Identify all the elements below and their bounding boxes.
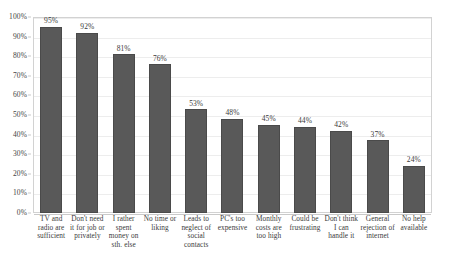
y-axis: 0%10%20%30%40%50%60%70%80%90%100%	[0, 17, 31, 213]
bar-value-label: 45%	[262, 114, 276, 123]
y-axis-tick-label: 40%	[13, 131, 27, 139]
y-axis-tick-label: 90%	[13, 33, 27, 41]
bar-slot: 81%	[106, 17, 142, 213]
x-axis-tick-label-line: liking	[142, 224, 178, 233]
x-axis-tick-label: Leads toneglect ofsocialcontacts	[178, 215, 214, 249]
x-axis-tick-label-line: frustrating	[287, 224, 323, 233]
bar-value-label: 92%	[80, 22, 94, 31]
x-axis-tick-label: No time orliking	[142, 215, 178, 232]
x-axis-tick-label: Don't needit for job orprivately	[69, 215, 105, 241]
x-axis-tick-label-line: handle it	[323, 232, 359, 241]
bar-value-label: 95%	[44, 16, 58, 25]
x-axis-tick-label-line: too high	[251, 232, 287, 241]
y-axis-tick-mark	[28, 56, 31, 57]
bar[interactable]	[258, 125, 280, 213]
bar-value-label: 48%	[225, 108, 239, 117]
y-axis-tick-label: 30%	[13, 150, 27, 158]
bar-slot: 37%	[359, 17, 395, 213]
x-axis-tick-label-line: sth. else	[106, 241, 142, 250]
x-axis-tick-label-line: expensive	[214, 224, 250, 233]
y-axis-tick-label: 80%	[13, 52, 27, 60]
x-axis-tick-label-line: internet	[359, 232, 395, 241]
y-axis-tick-mark	[28, 173, 31, 174]
y-axis-tick-label: 50%	[13, 111, 27, 119]
bar[interactable]	[76, 33, 98, 213]
bar[interactable]	[221, 119, 243, 213]
y-axis-tick-mark	[28, 17, 31, 18]
y-axis-tick-label: 100%	[9, 13, 27, 21]
bar-value-label: 76%	[153, 54, 167, 63]
x-axis-tick-label: I ratherspentmoney onsth. else	[106, 215, 142, 249]
x-axis-tick-label: PC's tooexpensive	[214, 215, 250, 232]
bar-slot: 92%	[69, 17, 105, 213]
bar[interactable]	[367, 140, 389, 213]
x-axis-tick-label: Don't thinkI canhandle it	[323, 215, 359, 241]
y-axis-tick-label: 70%	[13, 72, 27, 80]
y-axis-tick-mark	[28, 213, 31, 214]
y-axis-tick-mark	[28, 75, 31, 76]
x-axis-tick-label-line: available	[396, 224, 432, 233]
bar[interactable]	[113, 54, 135, 213]
bar-value-label: 53%	[189, 99, 203, 108]
bar-slot: 95%	[33, 17, 69, 213]
y-axis-tick-label: 10%	[13, 189, 27, 197]
bar[interactable]	[149, 64, 171, 213]
x-axis-tick-label-line: sufficient	[33, 232, 69, 241]
bar-slot: 53%	[178, 17, 214, 213]
bar[interactable]	[403, 166, 425, 213]
x-axis-tick-label: TV andradio aresufficient	[33, 215, 69, 241]
bars-layer: 95%92%81%76%53%48%45%44%42%37%24%	[33, 17, 432, 213]
y-axis-tick-label: 60%	[13, 91, 27, 99]
y-axis-tick-label: 20%	[13, 170, 27, 178]
y-axis-tick-label: 0%	[17, 209, 27, 217]
y-axis-tick-mark	[28, 134, 31, 135]
bar-slot: 24%	[396, 17, 432, 213]
bar-slot: 76%	[142, 17, 178, 213]
bar-slot: 48%	[214, 17, 250, 213]
x-axis-tick-label: Generalrejection ofinternet	[359, 215, 395, 241]
bar[interactable]	[40, 27, 62, 213]
bar-value-label: 42%	[334, 120, 348, 129]
bar-value-label: 37%	[371, 130, 385, 139]
y-axis-tick-mark	[28, 115, 31, 116]
bar-chart: 0%10%20%30%40%50%60%70%80%90%100% 95%92%…	[0, 0, 451, 266]
x-axis-tick-label: Monthlycosts aretoo high	[251, 215, 287, 241]
bar[interactable]	[185, 109, 207, 213]
bar-slot: 42%	[323, 17, 359, 213]
x-axis-tick-label-line: privately	[69, 232, 105, 241]
bar-value-label: 81%	[117, 44, 131, 53]
x-axis-tick-label-line: contacts	[178, 241, 214, 250]
x-axis-tick-label: No helpavailable	[396, 215, 432, 232]
bar[interactable]	[330, 131, 352, 213]
bar-slot: 44%	[287, 17, 323, 213]
y-axis-tick-mark	[28, 154, 31, 155]
y-axis-tick-mark	[28, 36, 31, 37]
bar-slot: 45%	[251, 17, 287, 213]
y-axis-tick-mark	[28, 193, 31, 194]
bar-value-label: 24%	[407, 155, 421, 164]
x-axis: TV andradio aresufficientDon't needit fo…	[33, 215, 432, 265]
y-axis-tick-mark	[28, 95, 31, 96]
bar[interactable]	[294, 127, 316, 213]
bar-value-label: 44%	[298, 116, 312, 125]
x-axis-tick-label: Could befrustrating	[287, 215, 323, 232]
